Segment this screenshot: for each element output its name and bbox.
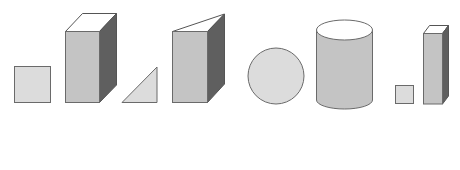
pair-2 bbox=[122, 14, 225, 103]
cylinder-body bbox=[317, 30, 373, 109]
cylinder-solid bbox=[317, 20, 373, 109]
triangular-prism-front-face bbox=[173, 32, 208, 103]
pair-3 bbox=[248, 20, 373, 109]
answer-slot-2[interactable]: ( ) bbox=[133, 124, 207, 162]
small-square-shape bbox=[396, 86, 414, 104]
triangular-prism-solid bbox=[173, 14, 225, 103]
cuboid-solid bbox=[66, 14, 117, 103]
answer-slot-1[interactable]: ( ) bbox=[12, 124, 86, 162]
pair-4 bbox=[396, 26, 449, 105]
circle-shape bbox=[248, 48, 304, 104]
answer-slot-3[interactable]: ( ) bbox=[255, 124, 329, 162]
tall-prism-side-face bbox=[443, 26, 449, 105]
triangle-shape bbox=[122, 67, 157, 103]
cylinder-top bbox=[317, 20, 373, 40]
cuboid-front-face bbox=[66, 32, 100, 103]
answer-slot-4[interactable]: ( ) bbox=[378, 124, 452, 162]
tall-prism-front-face bbox=[424, 34, 443, 105]
tall-prism-solid bbox=[424, 26, 449, 105]
pair-1 bbox=[15, 14, 117, 103]
square-shape bbox=[15, 67, 51, 103]
